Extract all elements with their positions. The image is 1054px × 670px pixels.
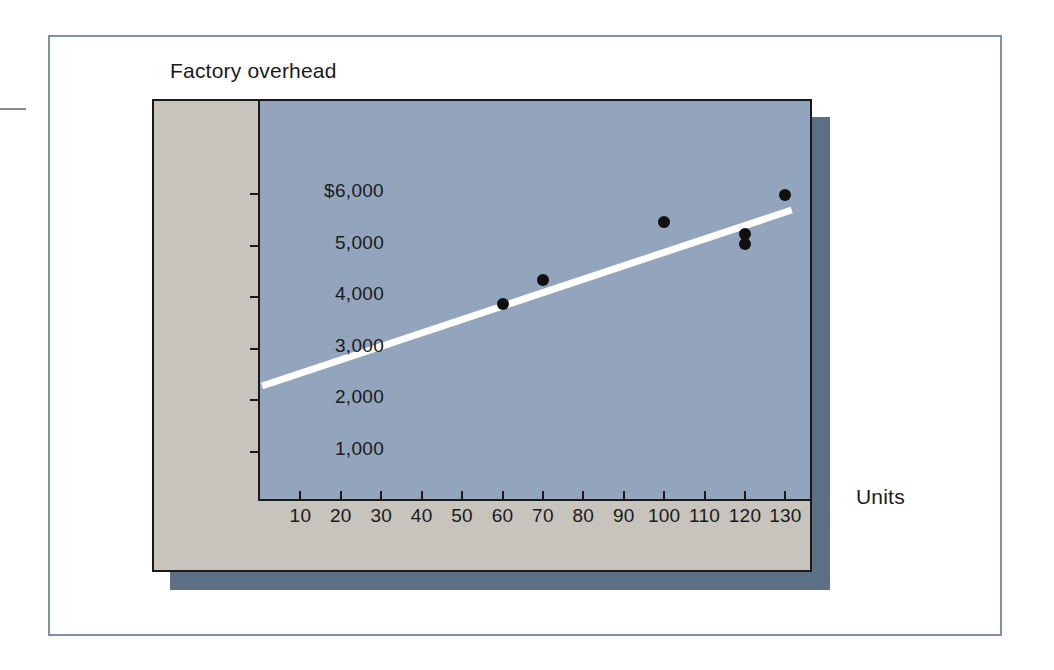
y-axis-tick bbox=[250, 296, 259, 298]
x-axis-tick bbox=[582, 491, 584, 500]
x-axis-tick bbox=[663, 491, 665, 500]
x-axis-tick-label: 90 bbox=[601, 505, 647, 527]
y-axis-tick-label: 4,000 bbox=[294, 283, 384, 305]
y-axis-tick bbox=[250, 193, 259, 195]
x-axis-tick bbox=[461, 491, 463, 500]
y-axis-tick-label: 2,000 bbox=[294, 386, 384, 408]
x-axis-tick-label: 120 bbox=[722, 505, 768, 527]
x-axis-tick bbox=[340, 491, 342, 500]
x-axis-tick-label: 60 bbox=[480, 505, 526, 527]
y-axis-tick-label: 3,000 bbox=[294, 335, 384, 357]
x-axis-tick-label: 10 bbox=[277, 505, 323, 527]
chart-block: 102030405060708090100110120130 bbox=[152, 99, 812, 572]
y-axis-line bbox=[258, 101, 260, 501]
x-axis-tick bbox=[421, 491, 423, 500]
x-axis-title: Units bbox=[856, 485, 905, 509]
y-axis-tick-label: 1,000 bbox=[294, 438, 384, 460]
x-axis-tick bbox=[299, 491, 301, 500]
chart-panel: 102030405060708090100110120130 bbox=[152, 99, 812, 572]
y-axis-tick bbox=[250, 245, 259, 247]
x-axis-tick bbox=[704, 491, 706, 500]
x-axis-tick bbox=[542, 491, 544, 500]
left-edge-dash bbox=[0, 108, 26, 110]
x-axis-tick bbox=[784, 491, 786, 500]
x-axis-tick-label: 70 bbox=[520, 505, 566, 527]
data-point bbox=[739, 238, 751, 250]
y-axis-tick bbox=[250, 348, 259, 350]
y-axis-tick bbox=[250, 451, 259, 453]
y-axis-tick-label: $6,000 bbox=[294, 180, 384, 202]
y-axis-tick-label: 5,000 bbox=[294, 232, 384, 254]
x-axis-tick-label: 20 bbox=[318, 505, 364, 527]
y-axis-tick bbox=[250, 399, 259, 401]
x-axis-tick bbox=[502, 491, 504, 500]
chart-title: Factory overhead bbox=[170, 59, 337, 83]
x-axis-tick bbox=[744, 491, 746, 500]
x-axis-tick-label: 50 bbox=[439, 505, 485, 527]
x-axis-tick-label: 130 bbox=[762, 505, 808, 527]
x-axis-tick-label: 40 bbox=[399, 505, 445, 527]
x-axis-tick bbox=[623, 491, 625, 500]
x-axis-tick-label: 30 bbox=[358, 505, 404, 527]
x-axis-tick bbox=[380, 491, 382, 500]
data-point bbox=[497, 298, 509, 310]
x-axis-tick-label: 110 bbox=[682, 505, 728, 527]
x-axis-tick-label: 80 bbox=[560, 505, 606, 527]
x-axis-tick-label: 100 bbox=[641, 505, 687, 527]
